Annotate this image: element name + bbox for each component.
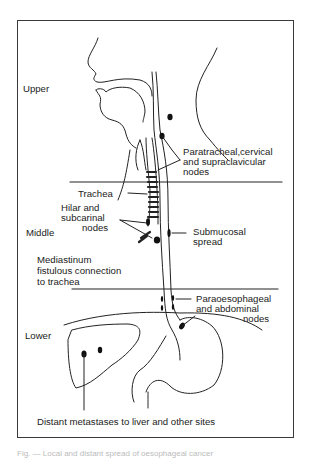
- label-mediastinum-line1: Mediastinum: [37, 255, 91, 265]
- diaphragm-line: [64, 312, 262, 330]
- larynx-outline: [136, 140, 146, 170]
- stomach-outline: [132, 318, 223, 408]
- label-mediastinum-line3: to trachea: [37, 277, 80, 287]
- thyroid-line: [118, 150, 130, 200]
- neck-outline: [196, 48, 228, 160]
- label-mediastinum-line2: fistulous connection: [37, 266, 121, 276]
- tongue-outline: [96, 90, 136, 148]
- region-label-lower: Lower: [25, 331, 51, 341]
- region-label-upper: Upper: [23, 84, 49, 94]
- palate-outline: [96, 87, 145, 122]
- label-paratracheal-line3: nodes: [183, 167, 209, 177]
- label-distant-metastases: Distant metastases to liver and other si…: [37, 417, 215, 427]
- label-submucosal-line2: spread: [193, 237, 222, 247]
- label-trachea: Trachea: [78, 189, 113, 199]
- region-label-middle: Middle: [26, 228, 54, 238]
- label-hilar-line3: nodes: [82, 223, 108, 233]
- lymph-nodes: [81, 114, 186, 358]
- label-paraoesophageal-line3: nodes: [243, 314, 269, 324]
- liver-outline: [68, 324, 140, 388]
- figure-caption: Fig. — Local and distant spread of oesop…: [17, 449, 213, 458]
